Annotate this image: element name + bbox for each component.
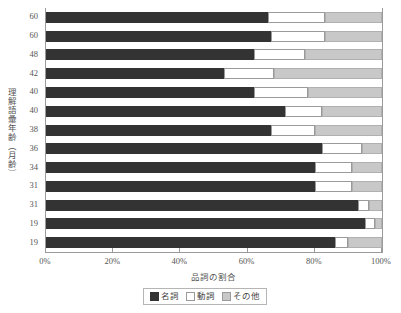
bar-row <box>46 106 382 117</box>
y-axis-tick-label: 38 <box>0 124 38 135</box>
x-axis-title: 品詞の割合 <box>45 270 382 282</box>
bar-row <box>46 162 382 173</box>
bar-segment-noun <box>46 162 315 173</box>
bar-segment-other <box>352 181 382 192</box>
bar-segment-noun <box>46 12 268 23</box>
bar-row <box>46 200 382 211</box>
x-axis-tick <box>45 248 46 252</box>
bar-segment-other <box>274 68 382 79</box>
y-axis-tick-label: 34 <box>0 162 38 173</box>
x-axis-tick-label: 20% <box>89 255 135 267</box>
bar-segment-verb <box>271 125 315 136</box>
y-axis-tick-label: 48 <box>0 49 38 60</box>
chart-legend: 名詞動詞その他 <box>143 288 267 305</box>
x-axis-tick-label: 0% <box>22 255 68 267</box>
legend-item[interactable]: 名詞 <box>150 292 179 301</box>
bar-segment-verb <box>254 87 308 98</box>
bar-segment-other <box>305 49 382 60</box>
bar-segment-noun <box>46 106 285 117</box>
bar-row <box>46 181 382 192</box>
bar-segment-verb <box>224 68 274 79</box>
bar-row <box>46 218 382 229</box>
bar-segment-other <box>325 12 382 23</box>
bar-segment-verb <box>315 162 352 173</box>
y-axis-tick-label: 60 <box>0 30 38 41</box>
bar-segment-other <box>315 125 382 136</box>
bar-segment-noun <box>46 181 315 192</box>
x-axis-tick <box>112 248 113 252</box>
bar-segment-other <box>352 162 382 173</box>
bar-segment-noun <box>46 200 358 211</box>
bar-row <box>46 237 382 248</box>
bar-segment-verb <box>285 106 322 117</box>
bar-segment-other <box>325 31 382 42</box>
x-axis-tick-label: 40% <box>156 255 202 267</box>
bar-row <box>46 143 382 154</box>
bar-segment-verb <box>254 49 304 60</box>
bar-segment-other <box>348 237 382 248</box>
y-axis-tick-label: 36 <box>0 143 38 154</box>
bar-segment-noun <box>46 218 365 229</box>
dark-swatch-icon <box>150 292 159 301</box>
y-axis-tick-label: 40 <box>0 105 38 116</box>
y-axis-tick-label: 60 <box>0 11 38 22</box>
y-axis-tick-label: 19 <box>0 237 38 248</box>
y-axis-tick-label: 19 <box>0 218 38 229</box>
bar-segment-verb <box>358 200 368 211</box>
bar-segment-verb <box>268 12 325 23</box>
bar-segment-other <box>369 200 382 211</box>
bar-segment-other <box>308 87 382 98</box>
bar-row <box>46 49 382 60</box>
bar-segment-verb <box>271 31 325 42</box>
x-axis-tick-label: 80% <box>291 255 337 267</box>
x-axis-tick-labels: 0%20%40%60%80%100% <box>0 255 401 269</box>
bar-segment-noun <box>46 31 271 42</box>
bar-row <box>46 125 382 136</box>
x-axis-tick-label: 60% <box>224 255 270 267</box>
plot-area <box>45 8 383 253</box>
bar-segment-noun <box>46 49 254 60</box>
legend-label: その他 <box>233 292 260 301</box>
bar-row <box>46 68 382 79</box>
legend-label: 名詞 <box>161 292 179 301</box>
y-axis-tick-labels: 60604842404038363431311919 <box>0 8 41 252</box>
y-axis-tick-label: 42 <box>0 68 38 79</box>
stacked-bar-chart: 理解語彙年齢（月齢） 60604842404038363431311919 0%… <box>0 0 401 313</box>
bar-segment-other <box>375 218 382 229</box>
y-axis-tick-label: 31 <box>0 199 38 210</box>
x-axis-tick-label: 100% <box>358 255 401 267</box>
bar-segment-noun <box>46 125 271 136</box>
bar-row <box>46 31 382 42</box>
bar-segment-other <box>362 143 382 154</box>
bar-segment-verb <box>365 218 375 229</box>
bar-row <box>46 12 382 23</box>
bar-segment-verb <box>315 181 352 192</box>
y-axis-tick-label: 40 <box>0 86 38 97</box>
legend-item[interactable]: その他 <box>222 292 260 301</box>
bar-segment-noun <box>46 237 335 248</box>
legend-label: 動詞 <box>197 292 215 301</box>
white-swatch-icon <box>186 292 195 301</box>
bar-segment-noun <box>46 87 254 98</box>
bar-segment-noun <box>46 68 224 79</box>
bar-row <box>46 87 382 98</box>
y-axis-tick-label: 31 <box>0 180 38 191</box>
x-axis-tick <box>179 248 180 252</box>
bars-layer <box>46 8 382 252</box>
gray-swatch-icon <box>222 292 231 301</box>
x-axis-tick <box>381 248 382 252</box>
bar-segment-other <box>322 106 382 117</box>
bar-segment-verb <box>335 237 348 248</box>
bar-segment-verb <box>322 143 362 154</box>
legend-item[interactable]: 動詞 <box>186 292 215 301</box>
x-axis-tick <box>314 248 315 252</box>
x-axis-tick <box>247 248 248 252</box>
bar-segment-noun <box>46 143 322 154</box>
